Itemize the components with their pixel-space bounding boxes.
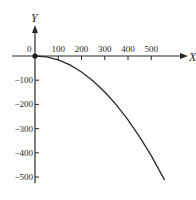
x-tick-label: 200 — [75, 44, 89, 54]
x-tick-label: 500 — [145, 44, 159, 54]
x-tick-label: 100 — [52, 44, 66, 54]
y-tick-label: −100 — [14, 75, 33, 85]
y-tick-label: −400 — [14, 148, 33, 158]
y-axis-label: Y — [31, 11, 39, 25]
x-axis-label: X — [188, 50, 196, 64]
y-tick-label: −200 — [14, 99, 33, 109]
x-axis-arrow-icon — [180, 53, 188, 59]
y-tick-label: −300 — [14, 124, 33, 134]
y-axis-arrow-icon — [32, 25, 38, 33]
origin-point — [32, 53, 37, 58]
x-ticks: 100200300400500 — [52, 44, 159, 60]
origin-label: 0 — [27, 44, 32, 54]
data-curve — [35, 56, 165, 180]
chart: X Y 0 100200300400500 −100−200−300−400−5… — [0, 0, 196, 200]
y-tick-label: −500 — [14, 172, 33, 182]
x-tick-label: 300 — [98, 44, 112, 54]
axes: X Y 0 — [12, 11, 196, 183]
x-tick-label: 400 — [121, 44, 135, 54]
